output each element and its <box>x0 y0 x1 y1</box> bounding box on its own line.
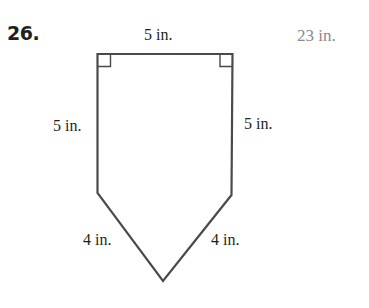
right-angle-marker-right <box>220 54 233 67</box>
bottom-left-side-label: 4 in. <box>83 231 111 249</box>
top-side-label: 5 in. <box>144 26 172 44</box>
pentagon-figure <box>0 0 369 308</box>
bottom-right-side-label: 4 in. <box>211 231 239 249</box>
right-side-label: 5 in. <box>244 115 272 133</box>
left-side-label: 5 in. <box>53 117 81 135</box>
right-angle-marker-left <box>98 54 111 67</box>
